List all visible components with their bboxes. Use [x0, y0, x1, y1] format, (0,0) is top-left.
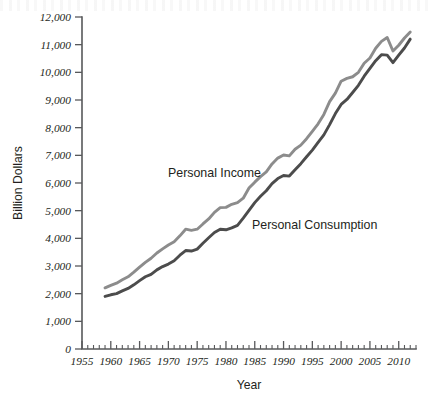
x-tick-label-2005: 2005: [359, 355, 382, 367]
y-tick-label-11000: 11,000: [41, 39, 72, 51]
series-lines: [105, 32, 410, 296]
series-line-personal-income: [105, 32, 410, 288]
x-tick-label-1970: 1970: [157, 355, 180, 367]
y-axis-ticks: 01,0002,0003,0004,0005,0006,0007,0008,00…: [40, 11, 82, 355]
x-axis-ticks: 1955196019651970197519801985199019952000…: [71, 341, 416, 367]
x-tick-label-1975: 1975: [186, 355, 209, 367]
annotation-personal-consumption: Personal Consumption: [252, 218, 377, 232]
x-tick-label-1985: 1985: [243, 355, 266, 367]
y-tick-label-8000: 8,000: [45, 122, 71, 134]
x-tick-label-2010: 2010: [387, 355, 410, 367]
y-tick-label-10000: 10,000: [40, 66, 72, 78]
x-tick-label-1990: 1990: [272, 355, 295, 367]
axis-lines: [82, 17, 416, 349]
y-tick-label-9000: 9,000: [45, 94, 71, 106]
y-tick-label-0: 0: [65, 343, 71, 355]
annotation-personal-income: Personal Income: [168, 166, 261, 180]
x-tick-label-1965: 1965: [128, 355, 151, 367]
x-axis-title: Year: [237, 378, 262, 392]
line-chart: 01,0002,0003,0004,0005,0006,0007,0008,00…: [0, 0, 428, 395]
y-axis-title: Billion Dollars: [11, 146, 25, 220]
y-tick-label-1000: 1,000: [45, 315, 71, 327]
series-annotations: Personal IncomePersonal Consumption: [168, 166, 377, 232]
y-tick-label-6000: 6,000: [45, 177, 71, 189]
y-tick-label-7000: 7,000: [45, 149, 71, 161]
x-tick-label-2000: 2000: [330, 355, 353, 367]
y-tick-label-12000: 12,000: [40, 11, 72, 23]
y-tick-label-3000: 3,000: [44, 260, 71, 272]
y-tick-label-4000: 4,000: [45, 232, 71, 244]
y-tick-label-2000: 2,000: [45, 288, 71, 300]
chart-figure: 01,0002,0003,0004,0005,0006,0007,0008,00…: [0, 0, 428, 395]
x-tick-label-1955: 1955: [71, 355, 94, 367]
x-tick-label-1960: 1960: [99, 355, 122, 367]
y-tick-label-5000: 5,000: [45, 205, 71, 217]
x-tick-label-1995: 1995: [301, 355, 324, 367]
x-tick-label-1980: 1980: [215, 355, 238, 367]
